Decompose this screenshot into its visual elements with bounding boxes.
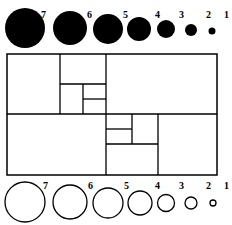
- circle-size-label: 2: [206, 180, 211, 191]
- circle-size-label: 4: [155, 180, 160, 191]
- filled-circle-row: 7654321: [5, 8, 229, 48]
- circle-size-label: 3: [179, 180, 184, 191]
- filled-circle-4: [127, 17, 151, 41]
- diagram-svg: 7654321 7654321: [0, 0, 232, 225]
- circle-size-label: 5: [124, 180, 129, 191]
- filled-circle-5: [93, 14, 123, 44]
- outline-circle-2: [185, 197, 197, 209]
- outline-circle-row: 7654321: [5, 180, 229, 222]
- circle-size-label: 6: [88, 180, 93, 191]
- circle-size-label: 2: [206, 9, 211, 20]
- diagram-canvas: 7654321 7654321: [0, 0, 232, 225]
- circle-size-label: 4: [155, 9, 160, 20]
- circle-size-label: 6: [87, 9, 92, 20]
- filled-circle-3: [157, 20, 175, 38]
- outline-circle-6: [53, 185, 87, 219]
- outline-circle-5: [93, 188, 123, 218]
- filled-circle-2: [185, 24, 197, 36]
- filled-circle-7: [5, 8, 45, 48]
- circle-size-label: 1: [224, 9, 229, 20]
- outline-circle-3: [158, 195, 175, 212]
- filled-circle-1: [209, 28, 216, 35]
- circle-size-label: 7: [43, 180, 48, 191]
- outline-circle-4: [128, 191, 152, 215]
- rectangle-subdivision-grid: [7, 54, 217, 175]
- outline-circle-1: [210, 200, 216, 206]
- circle-size-label: 5: [123, 9, 128, 20]
- filled-circle-6: [53, 11, 87, 45]
- outline-circle-7: [5, 182, 45, 222]
- circle-size-label: 1: [224, 180, 229, 191]
- circle-size-label: 3: [179, 9, 184, 20]
- circle-size-label: 7: [41, 9, 46, 20]
